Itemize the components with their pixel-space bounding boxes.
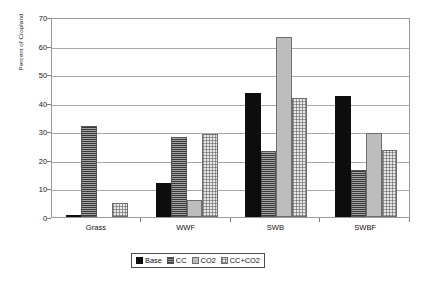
bar bbox=[245, 93, 261, 217]
y-tick-label: 60 bbox=[13, 42, 47, 51]
legend-label: CO2 bbox=[201, 256, 216, 265]
y-tick-label: 50 bbox=[13, 71, 47, 80]
plot-area bbox=[51, 18, 410, 218]
bar bbox=[187, 200, 203, 217]
legend-swatch bbox=[167, 257, 174, 264]
gridline bbox=[52, 162, 409, 163]
legend-entry: Base bbox=[136, 256, 162, 265]
bar bbox=[351, 170, 367, 217]
y-tick-label: 20 bbox=[13, 156, 47, 165]
y-tick-label: 70 bbox=[13, 14, 47, 23]
gridline bbox=[52, 133, 409, 134]
legend-entry: CO2 bbox=[192, 256, 216, 265]
gridline bbox=[52, 76, 409, 77]
legend-entry: CC bbox=[167, 256, 187, 265]
bar bbox=[171, 137, 187, 217]
bar bbox=[81, 126, 97, 217]
bar bbox=[202, 134, 218, 217]
x-tick-label: SWBF bbox=[354, 223, 376, 232]
bar bbox=[335, 96, 351, 217]
y-tick-label: 10 bbox=[13, 185, 47, 194]
x-tick-mark bbox=[230, 218, 231, 222]
bar bbox=[156, 183, 172, 217]
legend-label: CC bbox=[176, 256, 187, 265]
y-tick-label: 40 bbox=[13, 99, 47, 108]
legend-swatch bbox=[192, 257, 199, 264]
x-tick-mark bbox=[140, 218, 141, 222]
bar bbox=[66, 215, 82, 217]
bar bbox=[261, 151, 277, 217]
y-tick-label: 30 bbox=[13, 128, 47, 137]
bar bbox=[292, 98, 308, 217]
legend-swatch bbox=[136, 257, 143, 264]
x-tick-label: Grass bbox=[86, 223, 106, 232]
gridline bbox=[52, 105, 409, 106]
y-tick-label: 0 bbox=[13, 214, 47, 223]
gridline bbox=[52, 48, 409, 49]
x-tick-mark bbox=[319, 218, 320, 222]
legend-label: CC+CO2 bbox=[230, 256, 260, 265]
x-tick-mark bbox=[409, 218, 410, 222]
bar-chart: Percent of Cropland 010203040506070 Gras… bbox=[0, 0, 434, 285]
bar bbox=[382, 150, 398, 217]
legend-label: Base bbox=[145, 256, 162, 265]
bar bbox=[366, 133, 382, 217]
x-axis-tick-labels: GrassWWFSWBSWBF bbox=[51, 223, 410, 237]
chart-legend: BaseCCCO2CC+CO2 bbox=[131, 253, 265, 268]
x-tick-label: SWB bbox=[267, 223, 284, 232]
y-axis-tick-labels: 010203040506070 bbox=[8, 18, 47, 218]
bar bbox=[276, 37, 292, 217]
legend-entry: CC+CO2 bbox=[221, 256, 260, 265]
bar bbox=[112, 203, 128, 217]
x-tick-label: WWF bbox=[176, 223, 195, 232]
legend-swatch bbox=[221, 257, 228, 264]
